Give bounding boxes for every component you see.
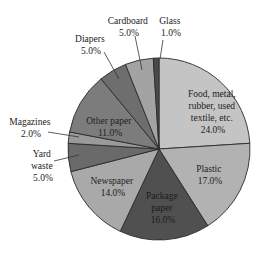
label-magazines: Magazines 2.0% bbox=[9, 117, 53, 139]
label-yard-waste: Yard waste 5.0% bbox=[31, 149, 55, 183]
label-diapers: Diapers 5.0% bbox=[75, 34, 107, 56]
pie-chart: Food, metal, rubber, used textile, etc. … bbox=[0, 0, 261, 253]
label-cardboard: Cardboard 5.0% bbox=[108, 16, 150, 38]
label-glass: Glass 1.0% bbox=[159, 16, 183, 38]
leader-glass bbox=[160, 40, 163, 59]
